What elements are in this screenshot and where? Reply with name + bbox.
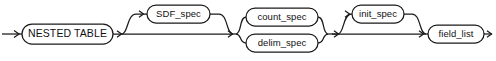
nested-table-label: NESTED TABLE	[28, 27, 107, 39]
init-spec-down-rail	[404, 14, 426, 34]
entry-rail	[2, 31, 22, 38]
node-delim-spec: delim_spec	[246, 34, 318, 52]
node-nested-table: NESTED TABLE	[22, 24, 113, 44]
init-spec-label: init_spec	[359, 8, 397, 19]
sdf-spec-up-rail	[122, 14, 147, 34]
field-list-label: field_list	[439, 28, 474, 39]
delim-spec-label: delim_spec	[258, 37, 307, 48]
count-spec-right-rail	[318, 17, 328, 34]
node-field-list: field_list	[428, 25, 484, 43]
sdf-spec-label: SDF_spec	[156, 8, 201, 19]
count-spec-label: count_spec	[257, 11, 306, 22]
railroad-diagram-canvas: NESTED TABLE SDF_spec	[0, 0, 496, 61]
node-sdf-spec: SDF_spec	[147, 5, 210, 23]
init-spec-enter-arrowhead	[345, 11, 350, 17]
delim-spec-right-rail	[318, 34, 328, 43]
node-init-spec: init_spec	[352, 5, 404, 23]
railroad-diagram: NESTED TABLE SDF_spec	[0, 0, 496, 61]
sdf-spec-down-rail	[210, 14, 233, 34]
delim-spec-left-rail	[236, 34, 246, 43]
count-spec-left-rail	[236, 17, 246, 34]
exit-rail	[484, 31, 492, 37]
node-count-spec: count_spec	[246, 8, 318, 26]
